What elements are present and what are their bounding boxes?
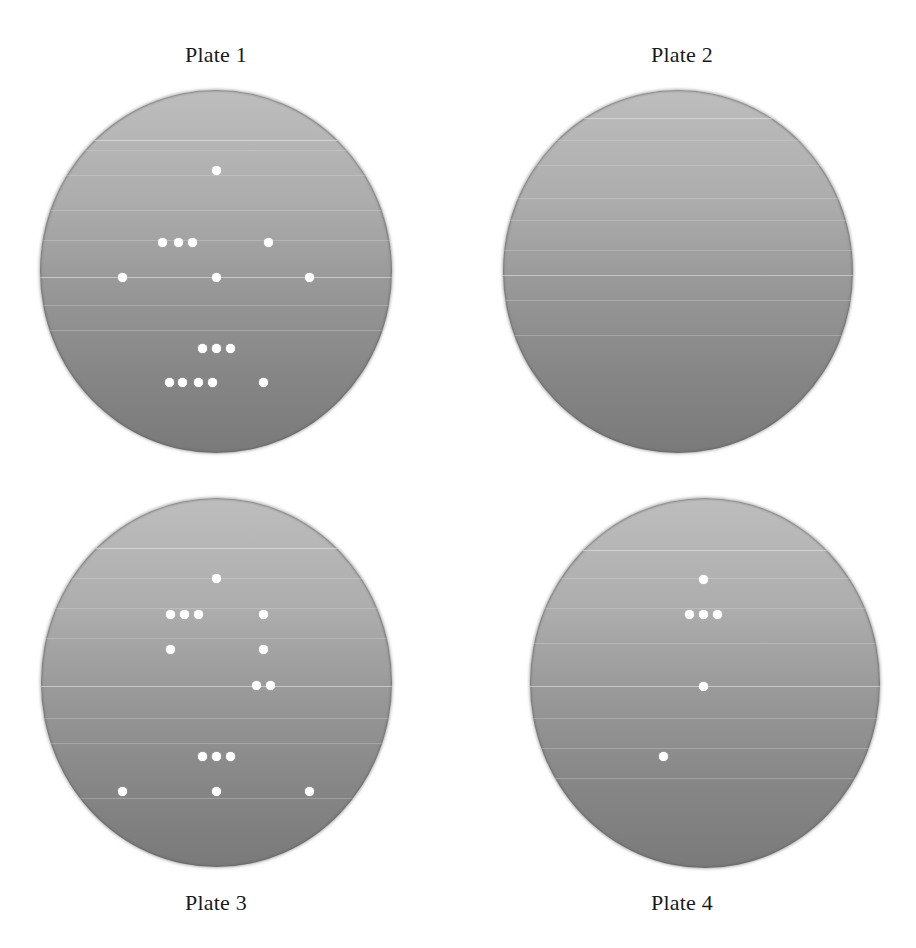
colony-dot [118,787,127,796]
colony-dot [118,273,127,282]
colony-dot [166,645,175,654]
colony-dot [188,238,197,247]
colony-dot [699,682,708,691]
colony-dot [266,681,275,690]
colony-dot [699,575,708,584]
colony-dot [198,344,207,353]
colony-dot [165,378,174,387]
colony-dot [252,681,261,690]
colony-dot [259,610,268,619]
colony-dot [226,344,235,353]
colony-dot [178,378,187,387]
colony-dot [212,273,221,282]
colony-dot [180,610,189,619]
colony-dot [212,166,221,175]
colony-dot [166,610,175,619]
colony-dot [264,238,273,247]
colony-dot [212,344,221,353]
colony-dot [659,752,668,761]
colony-dot [259,645,268,654]
colony-dot [699,610,708,619]
colony-dot [212,787,221,796]
colony-dot [208,378,217,387]
colony-dot [713,610,722,619]
colony-dot [212,574,221,583]
colony-dot [259,378,268,387]
colony-dot [194,610,203,619]
colony-dot [158,238,167,247]
colony-dot [174,238,183,247]
colony-dot [198,752,207,761]
colony-dot [305,273,314,282]
colony-dot [212,752,221,761]
colony-dot [685,610,694,619]
colony-dot [305,787,314,796]
colony-dot [194,378,203,387]
plates-figure: Plate 1 Plate 2 Plate 3 [0,0,916,948]
colony-dot [226,752,235,761]
colony-layer [0,0,916,948]
